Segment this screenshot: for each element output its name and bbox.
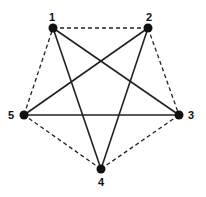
node-4 [97, 165, 106, 174]
node-1 [49, 24, 58, 33]
node-label-5: 5 [8, 109, 14, 121]
edges [24, 28, 179, 169]
pentagram-graph: 12345 [0, 0, 206, 197]
node-2 [144, 24, 153, 33]
dashed-edge-2-3 [148, 28, 179, 115]
solid-edge-2-4 [101, 28, 148, 169]
node-label-4: 4 [98, 176, 105, 188]
node-label-3: 3 [188, 109, 194, 121]
nodes [20, 24, 184, 174]
node-labels: 12345 [8, 11, 194, 188]
node-label-1: 1 [49, 11, 55, 23]
node-label-2: 2 [146, 11, 152, 23]
dashed-edge-5-1 [24, 28, 53, 115]
dashed-edge-3-4 [101, 115, 179, 169]
solid-edge-1-3 [53, 28, 179, 115]
solid-edge-2-5 [24, 28, 148, 115]
dashed-edge-4-5 [24, 115, 101, 169]
node-5 [20, 111, 29, 120]
solid-edge-1-4 [53, 28, 101, 169]
node-3 [175, 111, 184, 120]
